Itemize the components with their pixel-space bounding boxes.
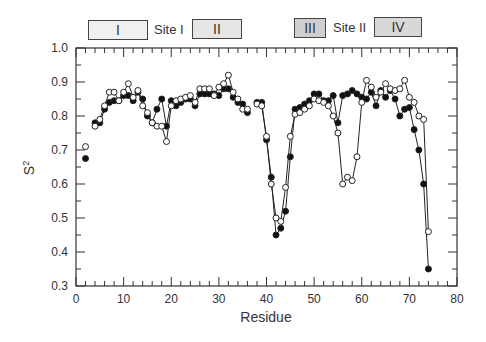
data-point-open [359, 99, 365, 105]
data-point-open [278, 218, 284, 224]
x-tick-label: 50 [307, 292, 321, 306]
data-point-open [364, 77, 370, 83]
data-point-open [192, 99, 198, 105]
data-point-open [425, 229, 431, 235]
x-tick-label: 20 [165, 292, 179, 306]
data-point-filled [373, 103, 379, 109]
data-point-open [116, 98, 122, 104]
data-point-open [130, 94, 136, 100]
data-point-open [368, 84, 374, 90]
y-tick-label: 0.9 [51, 75, 68, 89]
data-point-open [92, 123, 98, 129]
data-point-open [168, 103, 174, 109]
data-point-open [268, 181, 274, 187]
data-point-filled [383, 94, 389, 100]
data-point-open [330, 113, 336, 119]
data-point-open [83, 144, 89, 150]
data-point-open [221, 81, 227, 87]
data-point-open [140, 103, 146, 109]
x-axis-label: Residue [240, 309, 292, 325]
data-point-open [406, 94, 412, 100]
data-point-filled [283, 208, 289, 214]
data-point-open [135, 88, 141, 94]
x-tick-label: 70 [403, 292, 417, 306]
y-tick-label: 0.4 [51, 245, 68, 259]
data-point-open [340, 181, 346, 187]
data-point-open [349, 178, 355, 184]
data-point-open [306, 103, 312, 109]
x-tick-label: 10 [117, 292, 131, 306]
data-point-filled [411, 127, 417, 133]
series-line-open [257, 80, 428, 231]
data-point-open [144, 110, 150, 116]
y-tick-label: 0.7 [51, 143, 68, 157]
data-point-open [402, 77, 408, 83]
data-point-open [283, 184, 289, 190]
data-point-open [244, 106, 250, 112]
data-point-filled [416, 147, 422, 153]
data-point-open [102, 103, 108, 109]
data-point-open [225, 72, 231, 78]
data-point-open [397, 86, 403, 92]
data-point-filled [330, 93, 336, 99]
data-point-open [159, 123, 165, 129]
x-tick-label: 60 [355, 292, 369, 306]
data-point-open [211, 93, 217, 99]
data-point-open [287, 133, 293, 139]
x-tick-label: 40 [260, 292, 274, 306]
data-point-open [354, 154, 360, 160]
data-point-filled [159, 96, 165, 102]
data-point-open [383, 81, 389, 87]
data-point-open [125, 81, 131, 87]
data-point-filled [406, 105, 412, 111]
data-point-open [259, 103, 265, 109]
y-axis-label: S2 [21, 161, 37, 175]
y-tick-label: 0.3 [51, 279, 68, 293]
x-tick-label: 80 [450, 292, 464, 306]
chart-series [83, 72, 432, 272]
data-point-open [411, 99, 417, 105]
data-point-open [97, 116, 103, 122]
x-tick-label: 0 [73, 292, 80, 306]
data-point-filled [392, 96, 398, 102]
x-tick-label: 30 [212, 292, 226, 306]
plot-frame [76, 48, 457, 286]
data-point-filled [83, 156, 89, 162]
data-point-open [230, 89, 236, 95]
s2-chart: 010203040506070800.30.40.50.60.70.80.91.… [0, 0, 486, 342]
data-point-open [421, 116, 427, 122]
y-tick-label: 0.6 [51, 177, 68, 191]
data-point-open [373, 94, 379, 100]
data-point-open [264, 133, 270, 139]
data-point-filled [273, 232, 279, 238]
data-point-filled [154, 106, 160, 112]
data-point-filled [316, 91, 322, 97]
data-point-open [121, 89, 127, 95]
data-point-open [325, 103, 331, 109]
data-point-open [206, 86, 212, 92]
data-point-open [111, 89, 117, 95]
y-tick-label: 0.8 [51, 109, 68, 123]
data-point-open [378, 89, 384, 95]
data-point-filled [421, 181, 427, 187]
data-point-open [163, 139, 169, 145]
y-tick-label: 1.0 [51, 41, 68, 55]
data-point-filled [425, 266, 431, 272]
data-point-filled [397, 113, 403, 119]
data-point-filled [278, 225, 284, 231]
data-point-open [235, 96, 241, 102]
y-tick-label: 0.5 [51, 211, 68, 225]
data-point-open [187, 93, 193, 99]
data-point-open [335, 130, 341, 136]
